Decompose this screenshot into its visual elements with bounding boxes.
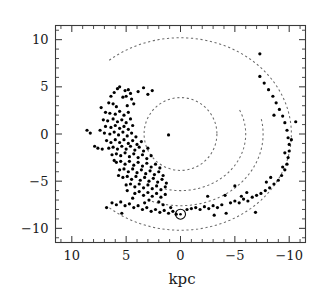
data-point bbox=[141, 153, 144, 156]
data-point bbox=[118, 127, 121, 130]
y-tick-label: −5 bbox=[29, 174, 48, 189]
data-point bbox=[134, 175, 137, 178]
data-point bbox=[120, 145, 123, 148]
data-point bbox=[129, 145, 132, 148]
data-point bbox=[132, 102, 135, 105]
data-point bbox=[283, 168, 286, 171]
data-point bbox=[139, 179, 142, 182]
data-point bbox=[133, 148, 136, 151]
data-point bbox=[137, 156, 140, 159]
data-point bbox=[109, 141, 112, 144]
data-point bbox=[137, 204, 140, 207]
data-point bbox=[150, 154, 153, 157]
data-point bbox=[281, 114, 284, 117]
data-point bbox=[105, 139, 108, 142]
data-point bbox=[268, 186, 271, 189]
data-point bbox=[169, 206, 172, 209]
data-point bbox=[129, 117, 132, 120]
data-point bbox=[159, 196, 162, 199]
data-point bbox=[288, 149, 291, 152]
data-point bbox=[281, 165, 284, 168]
data-point bbox=[269, 176, 272, 179]
y-tick-label: −10 bbox=[21, 221, 48, 236]
data-point bbox=[89, 131, 92, 134]
data-point bbox=[198, 208, 201, 211]
data-point bbox=[272, 182, 275, 185]
data-point bbox=[155, 192, 158, 195]
data-point bbox=[294, 120, 297, 123]
data-point bbox=[121, 176, 124, 179]
data-point bbox=[120, 118, 123, 121]
data-point bbox=[116, 148, 119, 151]
data-point bbox=[157, 170, 160, 173]
data-point bbox=[267, 88, 270, 91]
data-point bbox=[112, 102, 115, 105]
data-point bbox=[213, 214, 216, 217]
data-point bbox=[105, 206, 108, 209]
data-point bbox=[147, 198, 150, 201]
data-point bbox=[129, 182, 132, 185]
data-point bbox=[140, 168, 143, 171]
data-point bbox=[264, 189, 267, 192]
data-point bbox=[265, 181, 268, 184]
data-point bbox=[93, 145, 96, 148]
data-point bbox=[158, 166, 161, 169]
data-point bbox=[271, 95, 274, 98]
data-point bbox=[140, 140, 143, 143]
data-point bbox=[118, 110, 121, 113]
data-point bbox=[123, 151, 126, 154]
data-point bbox=[101, 148, 104, 151]
data-point bbox=[146, 191, 149, 194]
data-point bbox=[258, 52, 261, 55]
data-point bbox=[130, 97, 133, 100]
data-point bbox=[164, 185, 167, 188]
data-point bbox=[107, 101, 110, 104]
data-point bbox=[112, 117, 115, 120]
data-point bbox=[283, 151, 286, 154]
data-point bbox=[145, 157, 148, 160]
data-point bbox=[110, 201, 113, 204]
scatter-plot-canvas: 1050−5−101050−5−10 kpc bbox=[0, 0, 326, 294]
data-point bbox=[125, 121, 128, 124]
data-point bbox=[145, 206, 148, 209]
data-point bbox=[112, 146, 115, 149]
data-point bbox=[131, 124, 134, 127]
data-point bbox=[159, 188, 162, 191]
data-point bbox=[133, 192, 136, 195]
data-point bbox=[287, 136, 290, 139]
data-point bbox=[220, 203, 223, 206]
data-point bbox=[165, 181, 168, 184]
data-point bbox=[118, 168, 121, 171]
data-point bbox=[130, 131, 133, 134]
data-point bbox=[251, 196, 254, 199]
data-point bbox=[240, 195, 243, 198]
data-point bbox=[142, 86, 145, 89]
data-point bbox=[116, 120, 119, 123]
data-point bbox=[102, 118, 105, 121]
data-point bbox=[145, 162, 148, 165]
data-point bbox=[115, 105, 118, 108]
data-point bbox=[162, 203, 165, 206]
data-point bbox=[135, 143, 138, 146]
data-point bbox=[118, 141, 121, 144]
data-point bbox=[190, 207, 193, 210]
data-point bbox=[126, 189, 129, 192]
data-point bbox=[142, 194, 145, 197]
data-point bbox=[155, 184, 158, 187]
data-point bbox=[154, 208, 157, 211]
data-point bbox=[109, 95, 112, 98]
data-point bbox=[129, 92, 132, 95]
data-point bbox=[146, 183, 149, 186]
data-point bbox=[287, 156, 290, 159]
data-point bbox=[122, 138, 125, 141]
data-point bbox=[194, 206, 197, 209]
data-point bbox=[151, 195, 154, 198]
data-point bbox=[127, 128, 130, 131]
data-point bbox=[163, 209, 166, 212]
data-point bbox=[104, 125, 107, 128]
data-point bbox=[158, 211, 161, 214]
data-point bbox=[160, 178, 163, 181]
x-axis-title: kpc bbox=[168, 270, 195, 288]
data-point bbox=[143, 201, 146, 204]
data-point bbox=[106, 119, 109, 122]
